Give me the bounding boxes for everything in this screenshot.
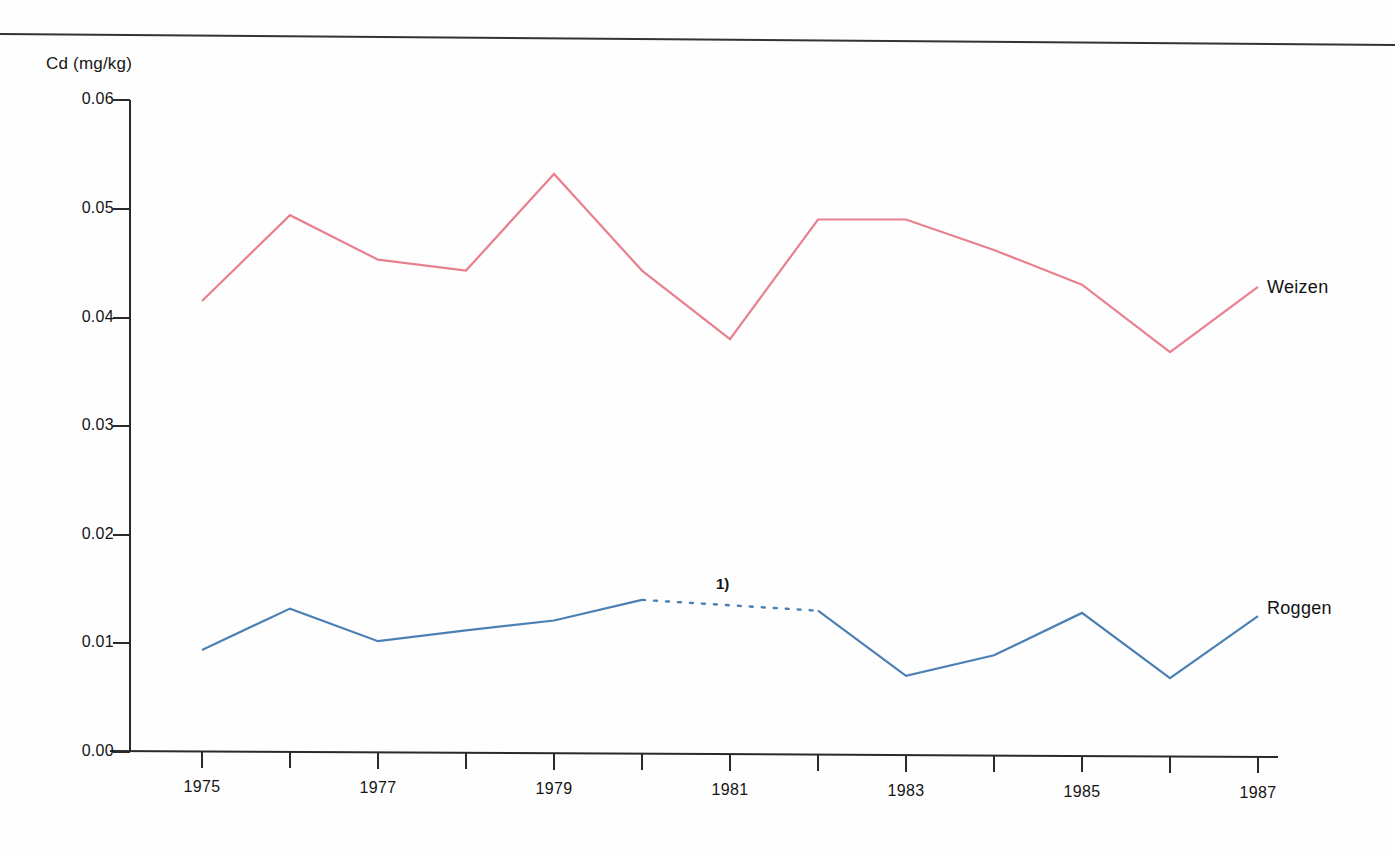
y-tick-label-0.00: 0.00 (44, 742, 114, 760)
y-axis-ticks (113, 100, 130, 752)
series-line-roggen-dashed-segment (642, 600, 818, 611)
line-chart-plot (0, 0, 1395, 856)
x-tick-label-1981: 1981 (695, 781, 765, 799)
series-line-roggen-solid-right (818, 611, 1258, 678)
y-tick-label-0.04: 0.04 (44, 308, 114, 326)
y-tick-label-0.03: 0.03 (44, 416, 114, 434)
footnote-marker-1: 1) (716, 575, 729, 592)
series-line-weizen (202, 174, 1258, 352)
x-tick-label-1983: 1983 (871, 782, 941, 800)
y-tick-label-0.06: 0.06 (44, 90, 114, 108)
y-tick-label-0.01: 0.01 (44, 633, 114, 651)
x-tick-label-1977: 1977 (343, 779, 413, 797)
series-label-weizen: Weizen (1267, 277, 1329, 298)
x-tick-label-1985: 1985 (1047, 783, 1117, 801)
series-label-roggen: Roggen (1267, 598, 1332, 619)
y-tick-label-0.02: 0.02 (44, 525, 114, 543)
y-tick-label-0.05: 0.05 (44, 199, 114, 217)
x-tick-label-1975: 1975 (167, 778, 237, 796)
chart-page: Cd (mg/kg) (0, 0, 1395, 856)
x-tick-label-1979: 1979 (519, 780, 589, 798)
series-line-roggen-solid-left (202, 600, 642, 650)
x-tick-label-1987: 1987 (1223, 784, 1293, 802)
x-axis-line (110, 751, 1278, 757)
